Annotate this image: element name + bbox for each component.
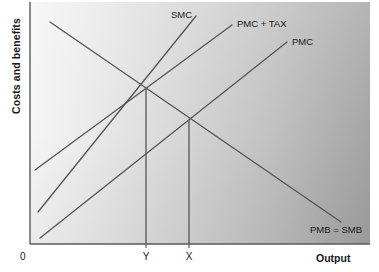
x-tick-label-y: Y xyxy=(143,251,150,262)
economics-externality-diagram: Costs and benefits Output 0 Y X SMC PMC … xyxy=(0,0,379,272)
y-axis-title: Costs and benefits xyxy=(10,6,22,126)
curve-label-smc: SMC xyxy=(171,9,192,20)
curve-label-pmc-plus-tax: PMC + TAX xyxy=(237,18,287,29)
curve-label-pmb-smb: PMB = SMB xyxy=(310,224,362,235)
x-tick-label-x: X xyxy=(186,251,193,262)
plot-background-sheen xyxy=(30,2,370,244)
x-axis-title: Output xyxy=(316,252,350,264)
origin-label: 0 xyxy=(20,251,26,262)
curve-label-pmc: PMC xyxy=(292,36,313,47)
